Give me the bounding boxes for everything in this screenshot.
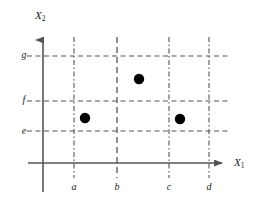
x-tick-label-c: c bbox=[163, 182, 175, 192]
y-tick-label-f: f bbox=[18, 95, 30, 105]
x-axis-label-subscript: 1 bbox=[241, 161, 245, 170]
x-axis-label: X1 bbox=[234, 157, 244, 168]
x-tick-label-b: b bbox=[111, 182, 123, 192]
y-axis-label: X2 bbox=[35, 10, 45, 21]
x-tick-label-a: a bbox=[68, 182, 80, 192]
x-tick-label-d: d bbox=[203, 182, 215, 192]
scatter-diagram: X2 X1 g f e a b c d bbox=[0, 0, 264, 211]
horizontal-gridlines bbox=[27, 56, 230, 131]
y-tick-label-e: e bbox=[18, 126, 30, 136]
y-tick-label-g: g bbox=[18, 50, 30, 60]
y-axis-label-subscript: 2 bbox=[42, 14, 46, 23]
data-point bbox=[80, 113, 90, 123]
data-point bbox=[175, 114, 185, 124]
plot-canvas bbox=[0, 0, 264, 211]
y-axis-label-text: X bbox=[35, 9, 42, 21]
x-axis-label-text: X bbox=[234, 156, 241, 168]
vertical-gridlines bbox=[74, 37, 209, 178]
axes bbox=[28, 40, 222, 192]
data-point bbox=[134, 74, 144, 84]
